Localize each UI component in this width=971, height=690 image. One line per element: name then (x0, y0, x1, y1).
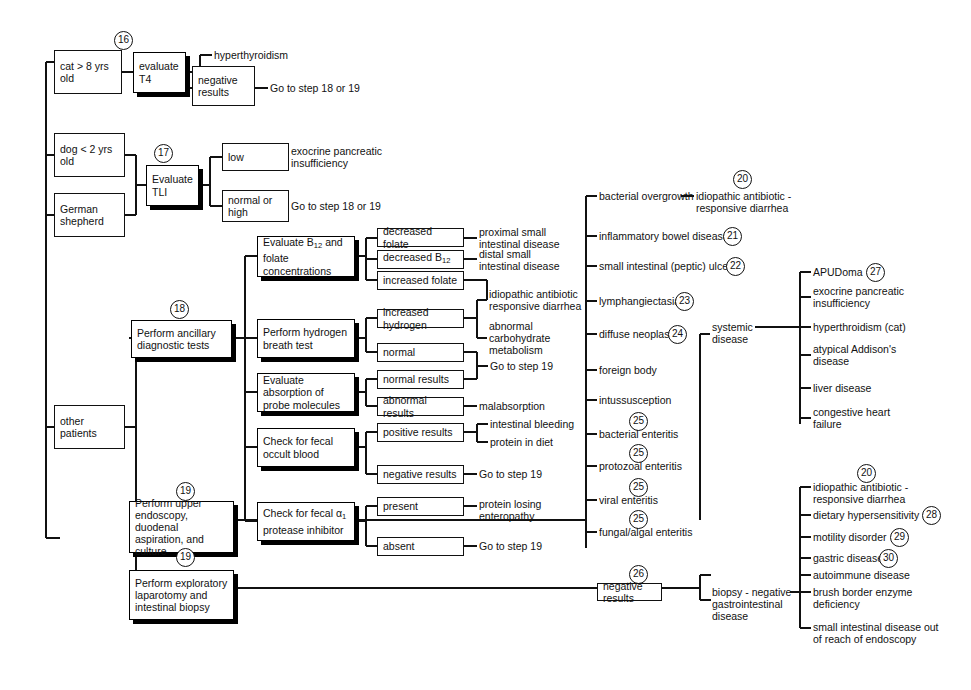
box-other-patients-label: other patients (60, 415, 119, 439)
label-goto-18-19-b: Go to step 18 or 19 (291, 200, 381, 212)
label-malabsorption: malabsorption (479, 400, 545, 412)
finding-fungal-algal-enteritis: fungal/algal enteritis (599, 526, 692, 538)
label-goto-18-19-a: Go to step 18 or 19 (270, 82, 360, 94)
box-abnormal-results-label: abnormal results (383, 394, 458, 418)
label-goto-19-a: Go to step 19 (490, 360, 553, 372)
label-biopsy-negative-gi-disease: biopsy - negative gastrointestinal disea… (712, 586, 791, 623)
step-number-16: 16 (114, 31, 133, 50)
box-decreased-b12-label: decreased B12 (383, 251, 450, 267)
box-evaluate-t4-label: evaluate T4 (139, 60, 180, 84)
box-dog-label: dog < 2 yrs old (60, 143, 119, 167)
box-positive-results-label: positive results (383, 426, 452, 438)
box-perform-ancillary-tests[interactable]: Perform ancillary diagnostic tests (131, 320, 232, 358)
box-positive-results[interactable]: positive results (377, 423, 464, 442)
box-protease-absent[interactable]: absent (377, 537, 464, 556)
box-evaluate-probe-absorption[interactable]: Evaluate absorption of probe molecules (257, 373, 355, 412)
label-idiopathic-antibiotic-responsive-diarrhea-20: idiopathic antibiotic - responsive diarr… (696, 190, 791, 214)
finding-bacterial-enteritis: bacterial enteritis (599, 428, 678, 440)
box-negative-results-occult[interactable]: negative results (377, 465, 464, 484)
box-check-fecal-occult-blood-label: Check for fecal occult blood (263, 435, 349, 459)
box-german-shepherd[interactable]: German shepherd (54, 193, 125, 237)
box-negative-results-26-label: negative results (603, 580, 656, 604)
box-perform-exploratory-laparotomy[interactable]: Perform exploratory laparotomy and intes… (129, 570, 234, 620)
step-number-21: 21 (723, 227, 742, 246)
box-negative-results-t4[interactable]: negative results (192, 66, 255, 106)
box-tli-normal-or-high[interactable]: normal or high (222, 190, 289, 222)
finding-bacterial-overgrowth: bacterial overgrowth (599, 190, 694, 202)
box-perform-upper-endoscopy[interactable]: Perform upper endoscopy, duodenal aspira… (129, 501, 234, 553)
biopsy-item-gastric-disease: gastric disease (813, 552, 883, 564)
box-dog[interactable]: dog < 2 yrs old (54, 133, 125, 177)
box-evaluate-b12-folate[interactable]: Evaluate B12 andfolate concentrations (257, 236, 355, 277)
box-evaluate-tli[interactable]: Evaluate TLI (146, 165, 199, 206)
systemic-item-atypical-addisons-disease: atypical Addison's disease (813, 343, 896, 367)
box-protease-present-label: present (383, 500, 418, 512)
step-number-23: 23 (675, 292, 694, 311)
step-number-24: 24 (668, 325, 687, 344)
systemic-item-hyperthroidism-cat: hyperthroidism (cat) (813, 321, 906, 333)
label-exocrine-pancreatic-insufficiency: exocrine pancreatic insufficiency (291, 145, 382, 169)
box-tli-low-label: low (228, 151, 244, 163)
box-evaluate-t4[interactable]: evaluate T4 (133, 52, 186, 93)
box-negative-results-26[interactable]: negative results (597, 583, 662, 601)
label-intestinal-bleeding: intestinal bleeding (490, 418, 574, 430)
box-increased-hydrogen[interactable]: increased hydrogen (377, 309, 464, 328)
box-perform-exploratory-laparotomy-label: Perform exploratory laparotomy and intes… (135, 577, 228, 614)
box-normal-results-label: normal results (383, 373, 449, 385)
label-goto-19-b: Go to step 19 (479, 468, 542, 480)
label-protein-losing-enteropathy: protein losing enteropathy (479, 498, 541, 522)
step-number-22: 22 (726, 257, 745, 276)
diagnostic-flowchart: cat > 8 yrs old dog < 2 yrs old German s… (0, 0, 971, 690)
box-increased-folate-label: increased folate (383, 274, 457, 286)
box-cat[interactable]: cat > 8 yrs old (54, 50, 122, 94)
box-decreased-b12[interactable]: decreased B12 (377, 250, 464, 269)
box-negative-results-occult-label: negative results (383, 468, 457, 480)
box-increased-folate[interactable]: increased folate (377, 271, 464, 290)
box-hydrogen-normal-label: normal (383, 346, 415, 358)
box-protease-present[interactable]: present (377, 497, 464, 516)
step-number-28: 28 (922, 506, 941, 525)
label-hyperthyroidism: hyperthyroidism (214, 49, 288, 61)
step-number-18: 18 (170, 300, 189, 319)
box-abnormal-results[interactable]: abnormal results (377, 397, 464, 416)
biopsy-item-idiopathic-antibiotic-responsive-diarrhea: idiopathic antibiotic - responsive diarr… (813, 481, 908, 505)
box-normal-results[interactable]: normal results (377, 370, 464, 389)
finding-protozoal-enteritis: protozoal enteritis (599, 460, 682, 472)
box-check-fecal-protease-inhibitor[interactable]: Check for fecal α1protease inhibitor (257, 502, 355, 541)
box-german-shepherd-label: German shepherd (60, 203, 119, 227)
box-hydrogen-breath-test-label: Perform hydrogen breath test (263, 326, 349, 350)
systemic-item-apudoma: APUDoma (813, 266, 863, 278)
systemic-item-exocrine-pancreatic-insufficiency: exocrine pancreatic insufficiency (813, 285, 904, 309)
box-protease-absent-label: absent (383, 540, 415, 552)
label-distal-small-intestinal-disease: distal small intestinal disease (479, 248, 560, 272)
box-tli-low[interactable]: low (222, 143, 289, 171)
box-other-patients[interactable]: other patients (54, 405, 125, 449)
finding-inflammatory-bowel-disease: inflammatory bowel disease (599, 230, 729, 242)
finding-small-intestinal-peptic-ulcer: small intestinal (peptic) ulcer (599, 260, 731, 272)
biopsy-item-brush-border-enzyme-deficiency: brush border enzyme deficiency (813, 586, 912, 610)
box-hydrogen-normal[interactable]: normal (377, 343, 464, 362)
label-abnormal-carbohydrate-metabolism: abnormal carbohydrate metabolism (489, 320, 550, 357)
box-cat-label: cat > 8 yrs old (60, 60, 116, 84)
step-number-20-overgrowth: 20 (733, 170, 752, 189)
box-negative-results-t4-label: negative results (198, 74, 249, 98)
finding-foreign-body: foreign body (599, 364, 657, 376)
box-check-fecal-occult-blood[interactable]: Check for fecal occult blood (257, 428, 355, 467)
box-tli-normal-or-high-label: normal or high (228, 194, 283, 218)
step-number-17: 17 (154, 144, 173, 163)
step-number-30: 30 (879, 549, 898, 568)
finding-lymphangiectasia: lymphangiectasia (599, 295, 680, 307)
box-perform-ancillary-tests-label: Perform ancillary diagnostic tests (137, 327, 226, 351)
box-decreased-folate[interactable]: decreased folate (377, 228, 464, 247)
box-evaluate-b12-folate-label: Evaluate B12 andfolate concentrations (263, 236, 349, 277)
biopsy-item-dietary-hypersensitivity: dietary hypersensitivity (813, 509, 919, 521)
label-goto-19-c: Go to step 19 (479, 540, 542, 552)
box-check-fecal-protease-inhibitor-label: Check for fecal α1protease inhibitor (263, 507, 346, 535)
biopsy-item-autoimmune-disease: autoimmune disease (813, 569, 910, 581)
systemic-item-liver-disease: liver disease (813, 382, 871, 394)
box-increased-hydrogen-label: increased hydrogen (383, 306, 458, 330)
step-number-29: 29 (890, 528, 909, 547)
box-evaluate-probe-absorption-label: Evaluate absorption of probe molecules (263, 374, 349, 411)
box-hydrogen-breath-test[interactable]: Perform hydrogen breath test (257, 319, 355, 358)
label-proximal-small-intestinal-disease: proximal small intestinal disease (479, 226, 560, 250)
